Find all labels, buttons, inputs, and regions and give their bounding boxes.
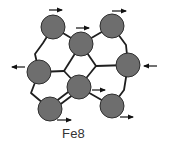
fe-atom-c — [100, 14, 124, 38]
fe-atom-b — [69, 32, 93, 56]
fe-atom-f — [67, 75, 91, 99]
fe-atom-a — [41, 15, 65, 39]
fe-atom-h — [100, 94, 124, 118]
fe-atom-g — [38, 97, 62, 121]
molecule-label: Fe8 — [62, 126, 85, 141]
atoms — [27, 14, 140, 121]
fe-atom-e — [116, 53, 140, 77]
fe-atom-d — [27, 60, 51, 84]
